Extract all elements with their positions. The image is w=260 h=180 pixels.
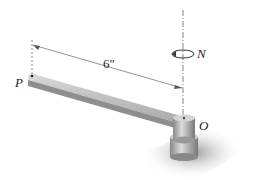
label-o: O <box>199 118 208 134</box>
pivot-cylinder <box>173 115 195 144</box>
wrench-bar <box>28 74 188 131</box>
label-dimension: 6″ <box>103 56 115 72</box>
label-p: P <box>15 75 23 91</box>
label-n: N <box>197 46 206 62</box>
point-p-marker <box>31 75 34 78</box>
wrench-diagram <box>0 0 260 180</box>
